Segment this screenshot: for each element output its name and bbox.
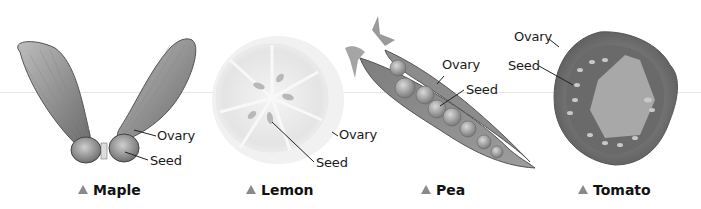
lemon-seed-label: Seed [316,155,348,170]
pea-seed-label: Seed [466,82,498,97]
pea-ovary-label: Ovary [442,57,480,72]
lemon-caption-text: Lemon [261,182,314,198]
maple-ovary-label: Ovary [157,128,195,143]
lemon-ovary-label: Ovary [339,127,377,142]
tomato-caption-text: Tomato [593,182,651,198]
fruit-diagram: Ovary Seed Maple Ovary Seed Lemon Ovary … [0,0,701,209]
triangle-up-icon [578,185,588,194]
tomato-seed-label: Seed [508,58,540,73]
fruit-illustrations [0,0,701,209]
tomato-ovary-label: Ovary [514,29,552,44]
pea-caption: Pea [421,182,465,198]
maple-caption: Maple [78,182,141,198]
pea-caption-text: Pea [436,182,465,198]
triangle-up-icon [78,185,88,194]
maple-caption-text: Maple [93,182,141,198]
pea-pod-illustration [345,16,535,168]
maple-seed-label: Seed [150,153,182,168]
lemon-slice-illustration [212,36,344,164]
tomato-caption: Tomato [578,182,651,198]
lemon-caption: Lemon [246,182,314,198]
maple-samara-illustration [18,39,196,163]
triangle-up-icon [246,185,256,194]
tomato-slice-illustration [539,32,678,165]
triangle-up-icon [421,185,431,194]
